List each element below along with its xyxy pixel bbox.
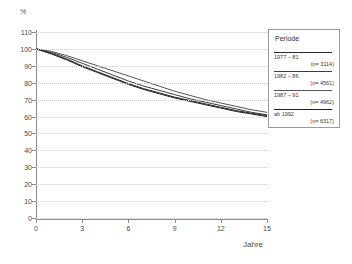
legend-item[interactable]: 1982 – 86(n= 4561) [274,71,336,87]
y-axis-tick-mark [32,133,36,134]
gridline-horizontal [36,218,267,219]
y-axis-tick-label: 50 [24,130,32,137]
y-axis-tick-label: 90 [24,62,32,69]
legend-item-count: (n= 4962) [274,99,336,106]
x-axis-tick-label: 0 [34,225,38,232]
y-axis-tick-label: 100 [20,45,32,52]
chart-figure: % 0102030405060708090100110 03691215 Jah… [0,0,352,264]
gridline-horizontal [36,117,267,118]
gridline-horizontal [36,100,267,101]
y-axis-tick-label: 40 [24,147,32,154]
x-axis-tick-mark [175,219,176,223]
x-axis-line [36,219,268,220]
x-axis-tick-label: 9 [173,225,177,232]
x-axis-tick-mark [82,219,83,223]
x-axis-tick-mark [36,219,37,223]
x-axis-tick-label: 12 [217,225,225,232]
legend-item-count: (n= 4561) [274,80,336,87]
x-axis-tick-mark [128,219,129,223]
x-axis-tick-label: 15 [263,225,271,232]
plot-area: 0102030405060708090100110 [36,32,267,218]
y-axis-tick-mark [32,100,36,101]
legend-swatch-line [274,90,332,91]
y-axis-tick-mark [32,83,36,84]
gridline-horizontal [36,150,267,151]
y-axis-tick-mark [32,150,36,151]
y-axis-tick-label: 60 [24,113,32,120]
gridline-horizontal [36,32,267,33]
x-axis-tick-mark [221,219,222,223]
legend-swatch-line [274,109,332,110]
gridline-horizontal [36,49,267,50]
gridline-horizontal [36,201,267,202]
y-axis-tick-mark [32,49,36,50]
legend-item-label: ab 1992 [274,111,336,118]
legend-item-label: 1982 – 86 [274,73,336,80]
y-axis-tick-label: 110 [21,29,32,36]
legend-item-count: (n= 3114) [274,61,336,68]
legend: Periode 1977 – 81(n= 3114)1982 – 86(n= 4… [268,29,340,128]
y-axis-tick-mark [32,117,36,118]
legend-swatch-line [274,52,332,53]
y-axis-tick-mark [32,66,36,67]
legend-item-count: (n= 6317) [274,118,336,125]
y-axis-tick-label: 20 [24,181,32,188]
x-axis-title: Jahre [243,240,263,249]
x-axis-tick-mark [267,219,268,223]
legend-item[interactable]: ab 1992(n= 6317) [274,109,336,125]
y-axis-tick-label: 0 [28,215,32,222]
y-axis-tick-mark [32,167,36,168]
y-axis-tick-label: 80 [24,79,32,86]
series-lines-group [36,32,267,218]
y-axis-tick-mark [32,32,36,33]
legend-item[interactable]: 1987 – 91(n= 4962) [274,90,336,106]
gridline-horizontal [36,184,267,185]
legend-swatch-line [274,71,332,72]
y-axis-tick-mark [32,201,36,202]
gridline-horizontal [36,66,267,67]
x-axis-tick-label: 6 [126,225,130,232]
gridline-horizontal [36,83,267,84]
legend-item-label: 1987 – 91 [274,92,336,99]
y-axis-tick-mark [32,184,36,185]
legend-title: Periode [275,35,299,42]
y-axis-tick-label: 70 [24,96,32,103]
gridline-horizontal [36,133,267,134]
legend-item[interactable]: 1977 – 81(n= 3114) [274,52,336,68]
legend-item-label: 1977 – 81 [274,54,336,61]
y-axis-unit-label: % [20,8,26,15]
gridline-horizontal [36,167,267,168]
y-axis-tick-label: 10 [24,198,32,205]
x-axis-tick-label: 3 [80,225,84,232]
y-axis-tick-label: 30 [24,164,32,171]
